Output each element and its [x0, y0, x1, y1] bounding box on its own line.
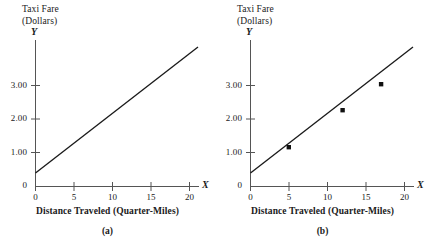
panel-a-xtick-label-5: 5	[64, 192, 85, 202]
panel-a-xtick-label-0: 0	[25, 192, 46, 202]
panel-a-x-axis-caption: Distance Traveled (Quarter-Miles)	[0, 206, 215, 216]
panel-b-xtick-label-15: 15	[356, 192, 377, 202]
panel-a: Taxi Fare (Dollars) Y X 3.00 2.00 1.00	[0, 0, 215, 244]
panel-b-data-point	[340, 108, 344, 112]
panel-a-ytick-label-2: 2.00	[5, 113, 27, 123]
panel-b-ytick-label-2: 2.00	[220, 113, 242, 123]
panel-b-xtick-label-10: 10	[317, 192, 338, 202]
panel-b: Taxi Fare (Dollars) Y X 3.00 2.00 1.00	[215, 0, 430, 244]
panel-b-data-point	[287, 145, 291, 149]
panel-a-xtick-label-10: 10	[102, 192, 123, 202]
panel-b-x-axis-caption: Distance Traveled (Quarter-Miles)	[215, 206, 430, 216]
panel-b-regression-line	[251, 47, 414, 173]
panel-b-data-point	[379, 82, 383, 86]
panel-a-ytick-label-0: 0	[5, 180, 27, 190]
panel-a-xtick-label-15: 15	[141, 192, 162, 202]
panel-a-xtick-label-20: 20	[179, 192, 200, 202]
panel-b-xtick-label-0: 0	[240, 192, 261, 202]
panel-b-ytick-label-3: 3.00	[220, 80, 242, 90]
panel-b-ytick-label-1: 1.00	[220, 147, 242, 157]
panel-b-ytick-label-0: 0	[220, 180, 242, 190]
panel-b-caption: (b)	[215, 226, 430, 236]
panel-b-xtick-label-5: 5	[279, 192, 300, 202]
panel-a-caption: (a)	[0, 226, 215, 236]
panel-a-ytick-label-1: 1.00	[5, 147, 27, 157]
taxi-fare-figure: Taxi Fare (Dollars) Y X 3.00 2.00 1.00	[0, 0, 430, 244]
panel-a-ytick-label-3: 3.00	[5, 80, 27, 90]
panel-b-xtick-label-20: 20	[394, 192, 415, 202]
panel-a-regression-line	[36, 47, 199, 173]
